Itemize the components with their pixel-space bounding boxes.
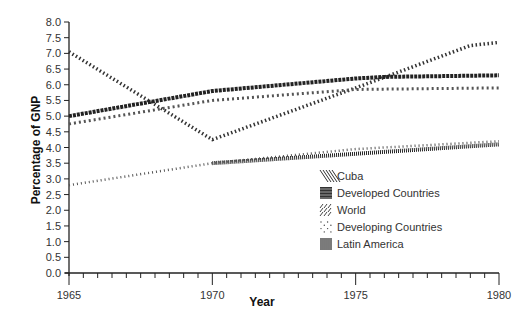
legend-item-latin-america: Latin America: [321, 238, 405, 250]
y-tick-label: 3.5: [46, 157, 61, 169]
y-axis-title: Percentage of GNP: [29, 96, 43, 205]
legend-label: Latin America: [337, 238, 405, 250]
legend-swatch-icon: [321, 238, 331, 250]
series-line-latin-america: [212, 144, 499, 163]
y-tick-label: 1.5: [46, 220, 61, 232]
y-axis: 0.00.51.01.52.02.53.03.54.04.55.05.56.06…: [46, 16, 69, 279]
legend-label: Developing Countries: [337, 221, 443, 233]
legend-item-developed-countries: Developed Countries: [320, 187, 440, 199]
legend-label: Cuba: [337, 170, 364, 182]
series-line-cuba: [69, 42, 499, 139]
series-line-developed-countries: [69, 75, 499, 116]
x-tick-label: 1975: [343, 289, 367, 301]
y-tick-label: 1.0: [46, 236, 61, 248]
line-chart: 0.00.51.01.52.02.53.03.54.04.55.05.56.06…: [0, 0, 516, 324]
legend-label: Developed Countries: [337, 187, 440, 199]
y-tick-label: 2.5: [46, 189, 61, 201]
y-tick-label: 0.0: [46, 267, 61, 279]
x-tick-label: 1970: [200, 289, 224, 301]
legend-item-world: World: [320, 204, 366, 216]
series-lines: [69, 42, 499, 185]
legend-swatch-icon: [320, 204, 331, 216]
legend-item-developing-countries: Developing Countries: [320, 221, 442, 233]
y-tick-label: 8.0: [46, 16, 61, 28]
y-tick-label: 4.5: [46, 126, 61, 138]
y-tick-label: 2.0: [46, 204, 61, 216]
x-tick-label: 1980: [487, 289, 511, 301]
legend-swatch-icon: [320, 187, 332, 199]
y-tick-label: 5.0: [46, 110, 61, 122]
x-tick-label: 1965: [57, 289, 81, 301]
y-tick-label: 0.5: [46, 251, 61, 263]
y-tick-label: 6.0: [46, 79, 61, 91]
y-tick-label: 3.0: [46, 173, 61, 185]
y-tick-label: 6.5: [46, 63, 61, 75]
legend-item-cuba: Cuba: [320, 170, 364, 182]
y-tick-label: 7.5: [46, 32, 61, 44]
y-tick-label: 4.0: [46, 142, 61, 154]
legend-label: World: [337, 204, 366, 216]
y-tick-label: 5.5: [46, 94, 61, 106]
x-axis-title: Year: [249, 295, 275, 309]
y-tick-label: 7.0: [46, 47, 61, 59]
legend: CubaDeveloped CountriesWorldDeveloping C…: [320, 170, 443, 250]
legend-swatch-icon: [320, 221, 331, 232]
x-axis: 1965197019751980: [57, 273, 511, 301]
